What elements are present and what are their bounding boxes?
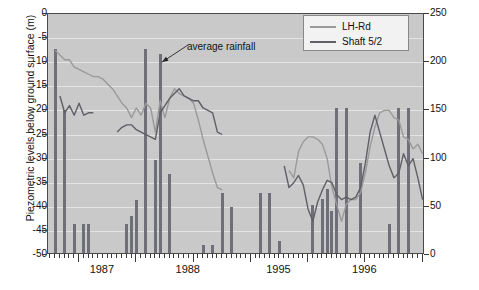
right-tick-label: 150 bbox=[430, 104, 472, 114]
x-year-label: 1987 bbox=[72, 264, 132, 275]
legend-label-shaft: Shaft 5/2 bbox=[342, 36, 382, 47]
right-tick-label: 50 bbox=[430, 201, 472, 211]
x-year-label: 1996 bbox=[334, 264, 394, 275]
legend-swatch-shaft bbox=[310, 41, 336, 43]
x-tick-major bbox=[250, 254, 251, 262]
chart-legend: LH-Rd Shaft 5/2 bbox=[303, 15, 409, 51]
right-tick-label: 0 bbox=[430, 249, 472, 259]
left-tick-label: -5 bbox=[7, 32, 47, 42]
left-tick bbox=[42, 254, 47, 255]
legend-swatch-lh-rd bbox=[310, 26, 336, 28]
legend-item: LH-Rd bbox=[308, 19, 404, 34]
left-tick-label: -25 bbox=[7, 129, 47, 139]
x-tick-major bbox=[193, 254, 194, 262]
annotation-arrow-head bbox=[162, 57, 168, 62]
left-tick-label: -20 bbox=[7, 104, 47, 114]
left-tick-label: -35 bbox=[7, 177, 47, 187]
left-tick-label: -15 bbox=[7, 80, 47, 90]
left-tick-label: -40 bbox=[7, 201, 47, 211]
right-tick-label: 200 bbox=[430, 56, 472, 66]
x-tick-major bbox=[422, 254, 423, 262]
x-tick-major bbox=[135, 254, 136, 262]
x-year-label: 1988 bbox=[158, 264, 218, 275]
left-tick-label: 0 bbox=[7, 8, 47, 18]
annotation-label: average rainfall bbox=[187, 41, 255, 52]
legend-label-lh-rd: LH-Rd bbox=[342, 21, 371, 32]
left-tick-label: -10 bbox=[7, 56, 47, 66]
x-tick-major bbox=[78, 254, 79, 262]
left-tick-label: -50 bbox=[7, 249, 47, 259]
left-tick-label: -30 bbox=[7, 153, 47, 163]
x-year-label: 1995 bbox=[248, 264, 308, 275]
x-tick-major bbox=[364, 254, 365, 262]
chart-figure: Piezometric levels below ground surface … bbox=[0, 0, 479, 290]
x-tick-major bbox=[307, 254, 308, 262]
left-tick-label: -45 bbox=[7, 225, 47, 235]
right-tick-label: 250 bbox=[430, 8, 472, 18]
right-tick-label: 100 bbox=[430, 153, 472, 163]
legend-item: Shaft 5/2 bbox=[308, 34, 404, 49]
